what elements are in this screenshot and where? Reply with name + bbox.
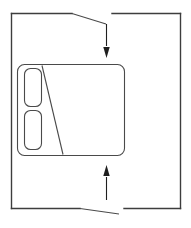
- line-drawing: [0, 0, 191, 228]
- cushion-lower: [25, 111, 42, 150]
- cushion-upper: [25, 69, 42, 107]
- wall-top-diagonal: [72, 14, 106, 25]
- diagram-canvas: Plan view clearance diagram seating unit…: [0, 0, 191, 228]
- arrow-up: [103, 165, 109, 200]
- arrow-down: [103, 24, 109, 58]
- arrow-down-head: [103, 47, 109, 58]
- wall-bottom-diagonal: [80, 209, 119, 215]
- arrow-up-head: [103, 165, 109, 176]
